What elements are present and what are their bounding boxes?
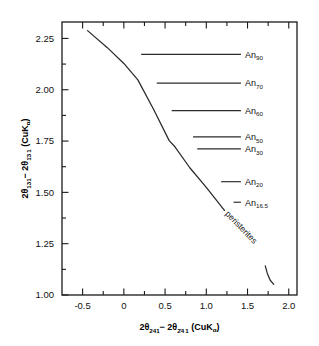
y-tick-label: 2.25 bbox=[36, 33, 55, 44]
x-tick-label: -0.5 bbox=[74, 300, 90, 311]
x-tick-label: 1.5 bbox=[241, 300, 254, 311]
x-tick-label: 0.5 bbox=[158, 300, 171, 311]
y-tick-label: 1.25 bbox=[36, 238, 55, 249]
y-tick-label: 2.00 bbox=[36, 84, 55, 95]
xrd-determinative-plot: -0.500.51.01.52.0 1.001.251.501.752.002.… bbox=[0, 0, 319, 346]
y-tick-label: 1.50 bbox=[36, 187, 55, 198]
y-tick-label: 1.00 bbox=[36, 289, 55, 300]
chart-figure: -0.500.51.01.52.0 1.001.251.501.752.002.… bbox=[0, 0, 319, 346]
x-tick-label: 2.0 bbox=[282, 300, 295, 311]
y-tick-label: 1.75 bbox=[36, 135, 55, 146]
x-tick-label: 0 bbox=[121, 300, 126, 311]
x-tick-label: 1.0 bbox=[200, 300, 213, 311]
